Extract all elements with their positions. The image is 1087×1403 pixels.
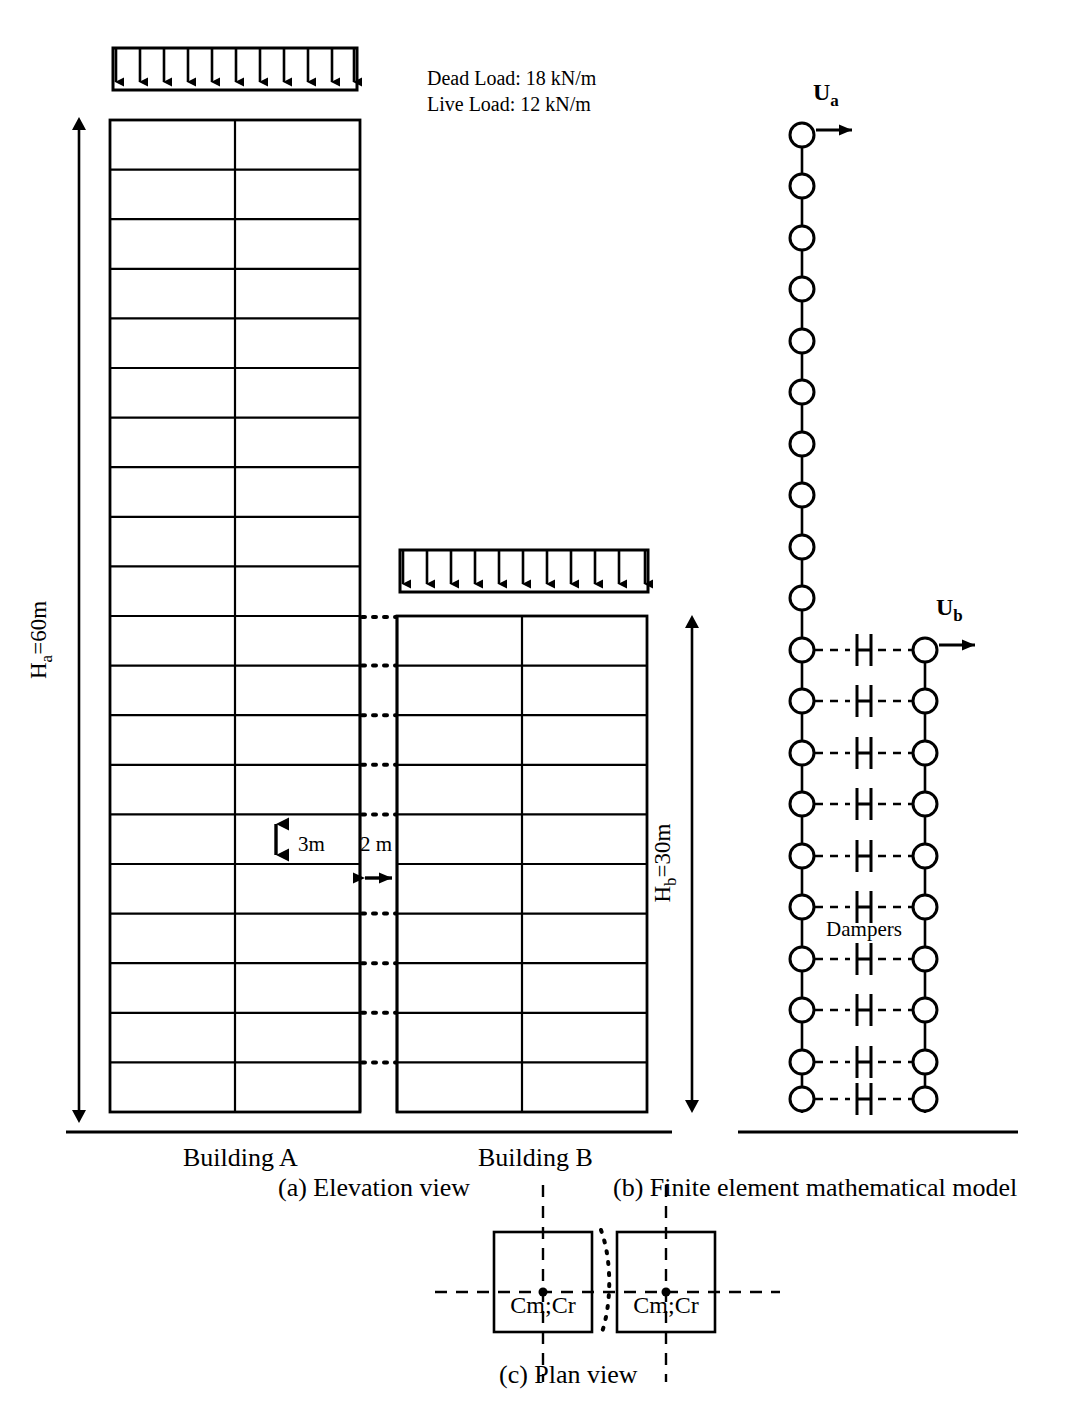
plan-connector-dotted xyxy=(601,1230,609,1335)
fe-dampers: Dampers xyxy=(815,634,912,1115)
live-load-label: Live Load: 12 kN/m xyxy=(427,93,591,115)
height-a-arrow-down xyxy=(72,1110,86,1123)
elevation-view: Dead Load: 18 kN/m Live Load: 12 kN/m Ha… xyxy=(26,48,699,1202)
elevation-caption: (a) Elevation view xyxy=(278,1173,470,1202)
displacement-b-label: Ub xyxy=(936,594,963,625)
displacement-a-label: Ua xyxy=(813,79,839,110)
plan-caption: (c) Plan view xyxy=(499,1360,638,1389)
storey-height-dimension: 3m xyxy=(276,824,325,856)
height-a-arrow-up xyxy=(72,117,86,130)
building-a-frame xyxy=(110,120,360,1112)
height-a-label-group: Ha=60m xyxy=(26,601,56,679)
gap-label: 2 m xyxy=(360,832,392,856)
load-arrows-b xyxy=(403,551,645,584)
storey-height-label: 3m xyxy=(298,832,325,856)
distributed-load-building-a xyxy=(113,48,357,90)
building-b-name: Building B xyxy=(478,1143,593,1172)
fe-model-view: Ua xyxy=(613,79,1018,1202)
height-a-dimension: Ha=60m xyxy=(26,117,86,1123)
height-b-label-group: Hb=30m xyxy=(650,823,680,902)
figure-root: Dead Load: 18 kN/m Live Load: 12 kN/m Ha… xyxy=(0,0,1087,1403)
height-b-label: Hb=30m xyxy=(650,823,680,902)
height-a-label: Ha=60m xyxy=(26,601,56,679)
height-b-arrow-up xyxy=(685,615,699,628)
displacement-a-indicator: Ua xyxy=(813,79,852,130)
fe-column-a xyxy=(790,123,814,1113)
load-arrows-a xyxy=(116,49,354,82)
engineering-figure: Dead Load: 18 kN/m Live Load: 12 kN/m Ha… xyxy=(0,0,1087,1403)
fe-column-b xyxy=(913,638,937,1113)
dampers-label: Dampers xyxy=(826,917,902,941)
plan-view: Cm;Cr Cm;Cr (c) Plan view xyxy=(435,1185,780,1389)
height-b-dimension: Hb=30m xyxy=(650,615,699,1113)
displacement-b-indicator: Ub xyxy=(936,594,975,645)
height-b-arrow-down xyxy=(685,1100,699,1113)
building-a-name: Building A xyxy=(183,1143,298,1172)
plan-block-b-label: Cm;Cr xyxy=(633,1292,698,1318)
damper-symbols xyxy=(857,634,871,1115)
fe-model-caption: (b) Finite element mathematical model xyxy=(613,1173,1017,1202)
plan-block-a-label: Cm;Cr xyxy=(510,1292,575,1318)
dead-load-label: Dead Load: 18 kN/m xyxy=(427,67,597,89)
gap-dimension: 2 m xyxy=(360,832,392,878)
building-b-frame xyxy=(397,616,647,1112)
damper-links xyxy=(815,650,912,1099)
distributed-load-building-b xyxy=(400,550,648,592)
separation-gap xyxy=(360,616,397,1112)
